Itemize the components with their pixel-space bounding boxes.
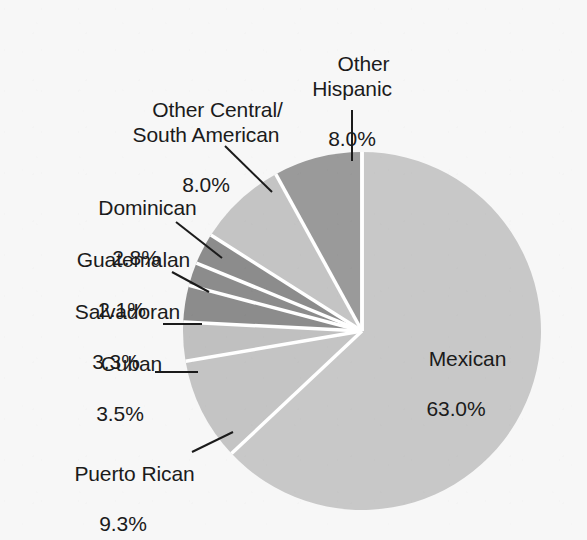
slice-label-dominican-name: Dominican bbox=[98, 196, 196, 219]
slice-label-other-hispanic-pct: 8.0% bbox=[292, 126, 412, 151]
slice-label-cuban-pct: 3.5% bbox=[58, 401, 182, 426]
slice-label-other-hispanic-name: Other Hispanic bbox=[312, 52, 392, 100]
slice-label-cuban-name: Cuban bbox=[101, 352, 162, 375]
slice-label-puerto-rican-pct: 9.3% bbox=[48, 511, 198, 536]
slice-label-other-hispanic: Other Hispanic 8.0% bbox=[292, 26, 412, 201]
slice-label-mexican-name: Mexican bbox=[429, 347, 507, 370]
slice-label-salvadoran-name: Salvadoran bbox=[75, 300, 180, 323]
slice-label-mexican-pct: 63.0% bbox=[386, 396, 526, 421]
slice-label-puerto-rican: Puerto Rican 9.3% bbox=[48, 436, 198, 540]
slice-label-guatemalan-name: Guatemalan bbox=[77, 248, 190, 271]
chart-canvas: Other Hispanic 8.0% Other Central/ South… bbox=[0, 0, 587, 540]
slice-label-puerto-rican-name: Puerto Rican bbox=[74, 462, 194, 485]
slice-label-other-central-south-american-name: Other Central/ South American bbox=[133, 98, 283, 146]
slice-label-mexican: Mexican 63.0% bbox=[386, 321, 526, 471]
